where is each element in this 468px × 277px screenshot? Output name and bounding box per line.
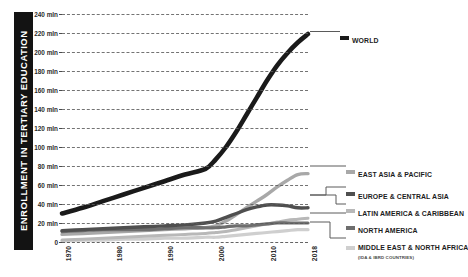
y-axis-tick-label: 140 mln [34, 106, 58, 113]
legend-label: MIDDLE EAST & NORTH AFRICA [358, 244, 468, 251]
legend-leader [310, 222, 346, 238]
gridline [62, 204, 308, 205]
y-axis-title: ENROLLMENT IN TERTIARY EDUCATION [14, 12, 33, 250]
y-axis-tick [59, 166, 62, 167]
y-axis-tick [59, 52, 62, 53]
y-axis-tick [59, 147, 62, 148]
legend-text-block: NORTH AMERICA [358, 219, 418, 237]
gridline [62, 128, 308, 129]
legend-text-block: EUROPE & CENTRAL ASIA [358, 185, 449, 203]
y-axis-tick [59, 223, 62, 224]
x-axis-tick-label: 1980 [116, 246, 123, 261]
y-axis-tick-label: 220 mln [34, 30, 58, 37]
y-axis-tick [59, 14, 62, 15]
legend-label: NORTH AMERICA [358, 227, 418, 234]
legend-swatch [346, 246, 355, 250]
gridline [62, 223, 308, 224]
x-axis-tick-label: 2010 [270, 246, 277, 261]
gridline [62, 52, 308, 53]
gridline [62, 185, 308, 186]
gridline [62, 71, 308, 72]
legend-swatch [340, 36, 349, 40]
legend-item-east-asia-pacific[interactable]: EAST ASIA & PACIFIC [346, 163, 432, 181]
y-axis-title-label: ENROLLMENT IN TERTIARY EDUCATION [19, 31, 29, 232]
legend-sublabel: (IDA & IBRD COUNTRIES) [358, 255, 468, 260]
y-axis-tick [59, 128, 62, 129]
legend-swatch [346, 226, 355, 230]
gridline [62, 166, 308, 167]
legend-leader [310, 195, 346, 204]
y-axis-tick-label: 200 mln [34, 49, 58, 56]
legend-text-block: LATIN AMERICA & CARIBBEAN [358, 202, 464, 220]
x-axis-tick-label: 1990 [167, 246, 174, 261]
legend-label: LATIN AMERICA & CARIBBEAN [358, 210, 464, 217]
y-axis-tick [59, 109, 62, 110]
legend-label: EAST ASIA & PACIFIC [358, 171, 432, 178]
y-axis-tick [59, 204, 62, 205]
legend-item-latin-america-caribbean[interactable]: LATIN AMERICA & CARIBBEAN [346, 202, 464, 220]
y-axis-tick-label: 160 mln [34, 87, 58, 94]
legend-text-block: MIDDLE EAST & NORTH AFRICA(IDA & IBRD CO… [358, 236, 468, 260]
gridline [62, 242, 308, 243]
legend-swatch [346, 192, 355, 196]
y-axis-tick-label: 40 mln [38, 201, 58, 208]
legend-swatch [346, 170, 355, 174]
x-axis-tick-label: 2000 [218, 246, 225, 261]
gridline [62, 147, 308, 148]
y-axis-tick [59, 185, 62, 186]
legend-text-block: EAST ASIA & PACIFIC [358, 163, 432, 181]
gridline [62, 109, 308, 110]
gridline [62, 14, 308, 15]
x-axis-tick-label: 1970 [65, 246, 72, 261]
legend-item-north-america[interactable]: NORTH AMERICA [346, 219, 418, 237]
legend-item-world[interactable]: WORLD [340, 29, 379, 47]
legend-label: EUROPE & CENTRAL ASIA [358, 193, 449, 200]
chart-legend: WORLDEAST ASIA & PACIFICEUROPE & CENTRAL… [310, 0, 456, 277]
y-axis-tick [59, 71, 62, 72]
y-axis-tick-label: 0 [54, 239, 58, 246]
gridline [62, 33, 308, 34]
legend-leader [310, 187, 346, 195]
legend-swatch [346, 209, 355, 213]
y-axis-tick-label: 240 mln [34, 11, 58, 18]
y-axis-tick [59, 90, 62, 91]
legend-item-europe-central-asia[interactable]: EUROPE & CENTRAL ASIA [346, 185, 449, 203]
y-axis-tick [59, 242, 62, 243]
y-axis-tick-label: 120 mln [34, 125, 58, 132]
gridline [62, 90, 308, 91]
series-line [62, 34, 308, 214]
y-axis-tick-label: 20 mln [38, 220, 58, 227]
y-axis-tick-label: 100 mln [34, 144, 58, 151]
y-axis-tick-label: 180 mln [34, 68, 58, 75]
legend-item-middle-east-north-africa[interactable]: MIDDLE EAST & NORTH AFRICA(IDA & IBRD CO… [346, 236, 468, 260]
legend-label: WORLD [352, 37, 379, 44]
y-axis-tick [59, 33, 62, 34]
y-axis-tick-label: 60 mln [38, 182, 58, 189]
legend-text-block: WORLD [352, 29, 379, 47]
y-axis-tick-label: 80 mln [38, 163, 58, 170]
plot-area: 020 mln40 mln60 mln80 mln100 mln120 mln1… [62, 14, 308, 242]
